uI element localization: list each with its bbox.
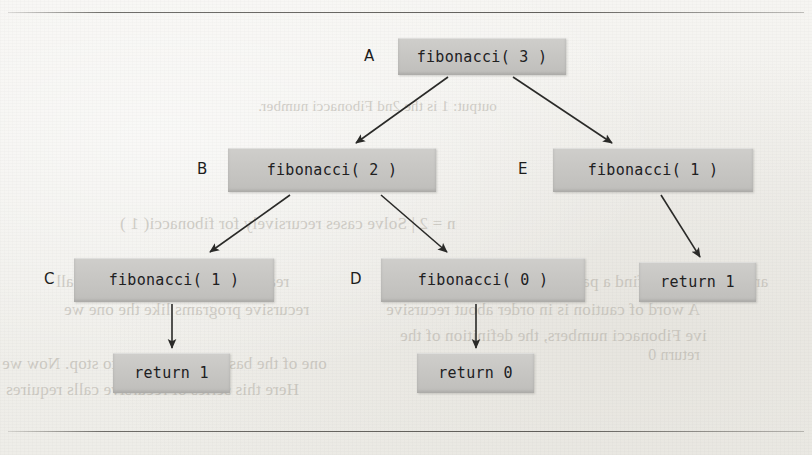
node-a: fibonacci( 3 ) xyxy=(398,38,566,75)
top-rule xyxy=(8,12,804,13)
node-e: fibonacci( 1 ) xyxy=(553,148,753,192)
node-r2: return 1 xyxy=(113,353,230,393)
node-label-d: D xyxy=(350,270,362,288)
node-d: fibonacci( 0 ) xyxy=(381,258,585,302)
node-r1: return 1 xyxy=(639,262,756,302)
node-c: fibonacci( 1 ) xyxy=(74,258,274,302)
bottom-rule xyxy=(8,431,804,432)
node-label-c: C xyxy=(44,270,55,288)
node-r3: return 0 xyxy=(417,353,534,393)
node-label-b: B xyxy=(197,160,208,178)
node-label-a: A xyxy=(364,47,374,65)
node-b: fibonacci( 2 ) xyxy=(228,148,436,192)
node-label-e: E xyxy=(518,160,528,178)
